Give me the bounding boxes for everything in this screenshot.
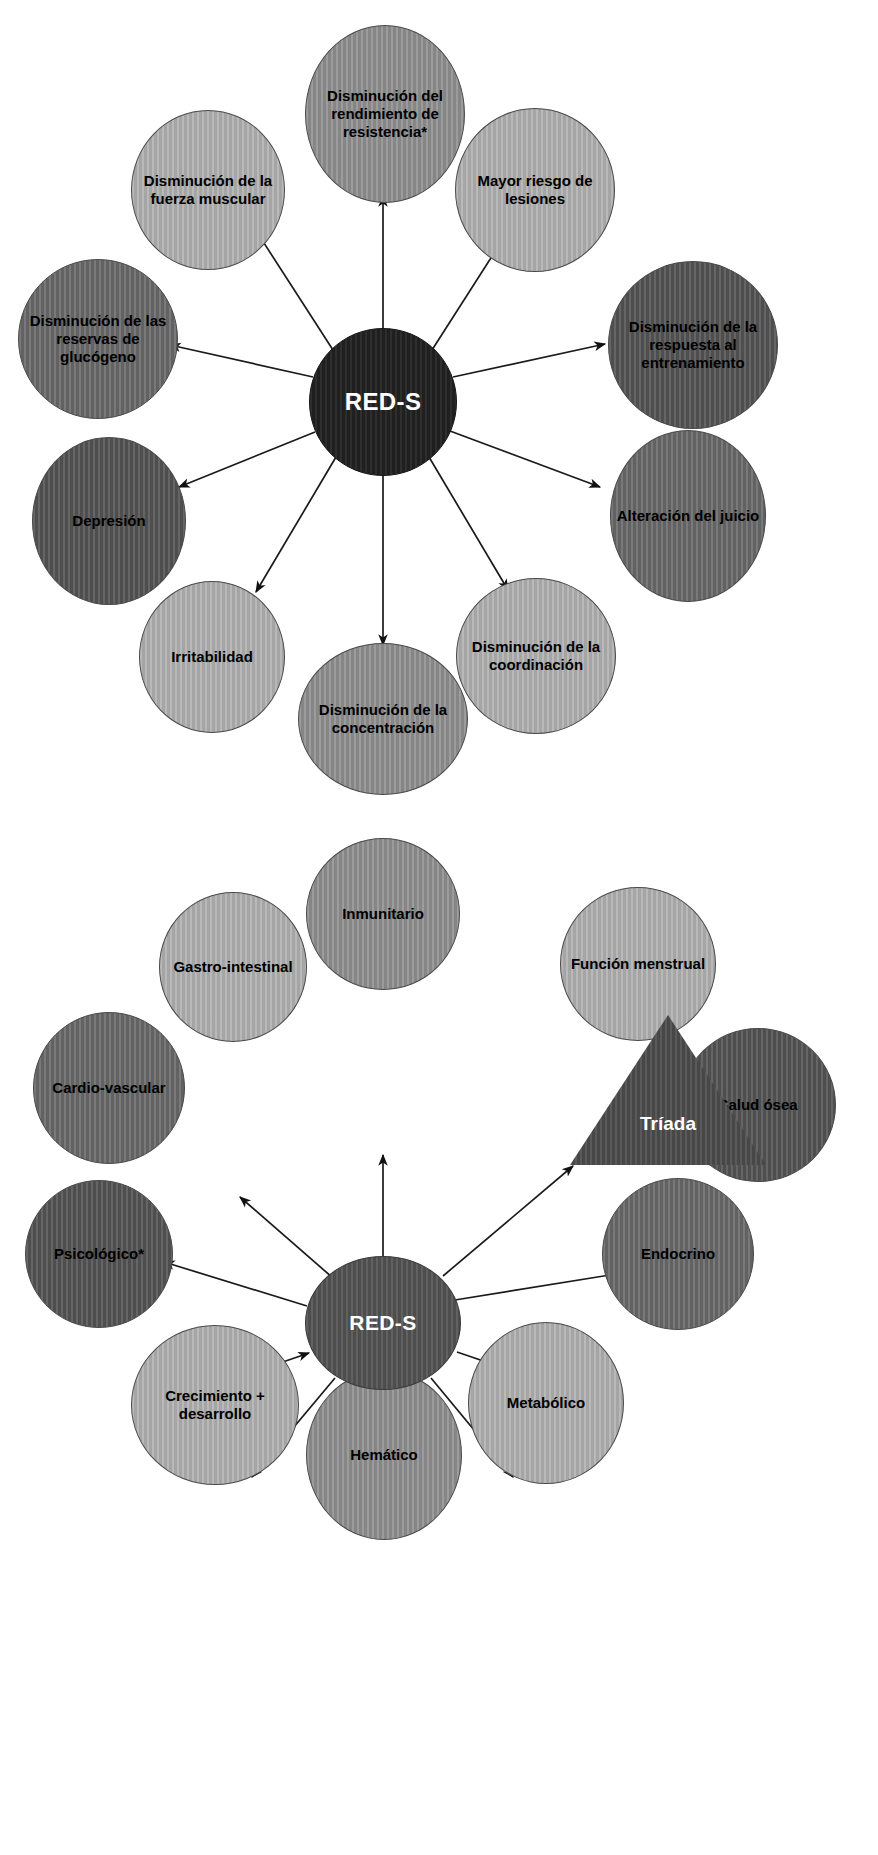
node-label: Metabólico: [474, 1394, 618, 1412]
node-label: Disminución de la coordinación: [462, 638, 610, 675]
node-label: Disminución de la respuesta al entrenami…: [614, 318, 772, 373]
triangle-label: Tríada: [640, 1113, 696, 1135]
node-label: Disminución de la concentración: [304, 701, 462, 738]
node-gastrointestinal[interactable]: Gastro-intestinal: [159, 892, 307, 1042]
connector-funcionmenstrual: [443, 1166, 573, 1276]
diagram-canvas: Disminución del rendimiento de resistenc…: [0, 0, 878, 1855]
hub-label: RED-S: [311, 1310, 455, 1336]
connector-coordinacion: [429, 457, 508, 590]
node-mayor-riesgo-lesiones[interactable]: Mayor riesgo de lesiones: [455, 108, 615, 272]
connector-gastrointestinal: [240, 1197, 333, 1278]
node-metabolico[interactable]: Metabólico: [468, 1322, 624, 1484]
hub-reds-performance[interactable]: RED-S: [309, 328, 457, 476]
node-label: Disminución de las reservas de glucógeno: [24, 312, 172, 367]
node-label: Inmunitario: [312, 905, 454, 923]
node-label: Cardio-vascular: [39, 1079, 179, 1097]
node-psicologico[interactable]: Psicológico*: [25, 1180, 173, 1328]
node-label: Irritabilidad: [145, 648, 279, 666]
connector-fuerza: [253, 226, 333, 350]
node-endocrino[interactable]: Endocrino: [602, 1178, 754, 1330]
node-disminucion-rendimiento-resistencia[interactable]: Disminución del rendimiento de resistenc…: [305, 25, 465, 203]
connector-respuesta: [453, 344, 605, 377]
node-disminucion-reservas-glucogeno[interactable]: Disminución de las reservas de glucógeno: [18, 259, 178, 419]
node-label: Alteración del juicio: [616, 507, 760, 525]
node-label: Psicológico*: [31, 1245, 167, 1263]
node-disminucion-concentracion[interactable]: Disminución de la concentración: [298, 643, 468, 795]
hub-reds-health[interactable]: RED-S: [305, 1256, 461, 1390]
node-label: Mayor riesgo de lesiones: [461, 172, 609, 209]
connector-saludosea: [455, 1275, 610, 1300]
node-depresion[interactable]: Depresión: [32, 437, 186, 605]
node-disminucion-fuerza-muscular[interactable]: Disminución de la fuerza muscular: [131, 110, 285, 270]
node-label: Endocrino: [608, 1245, 748, 1263]
node-disminucion-coordinacion[interactable]: Disminución de la coordinación: [456, 578, 616, 734]
node-label: Gastro-intestinal: [165, 958, 301, 976]
node-crecimiento-desarrollo[interactable]: Crecimiento + desarrollo: [131, 1325, 299, 1485]
node-label: Crecimiento + desarrollo: [137, 1387, 293, 1424]
connector-juicio: [450, 431, 600, 487]
node-label: Disminución del rendimiento de resistenc…: [311, 87, 459, 142]
node-disminucion-respuesta-entrenamiento[interactable]: Disminución de la respuesta al entrenami…: [608, 261, 778, 429]
triangle-triada[interactable]: Tríada: [570, 1015, 766, 1165]
node-cardiovascular[interactable]: Cardio-vascular: [33, 1012, 185, 1164]
connector-irritabilidad: [256, 457, 336, 592]
connector-depresion: [179, 432, 315, 487]
triangle-shape: [570, 1015, 766, 1165]
node-inmunitario[interactable]: Inmunitario: [306, 838, 460, 990]
connector-glucogeno: [170, 345, 313, 377]
connector-cardiovascular: [164, 1262, 307, 1306]
node-alteracion-juicio[interactable]: Alteración del juicio: [610, 430, 766, 602]
node-irritabilidad[interactable]: Irritabilidad: [139, 581, 285, 733]
node-hematico[interactable]: Hemático: [306, 1370, 462, 1540]
node-label: Disminución de la fuerza muscular: [137, 172, 279, 209]
node-label: Hemático: [312, 1446, 456, 1464]
node-label: Función menstrual: [566, 955, 710, 973]
node-label: Depresión: [38, 512, 180, 530]
hub-label: RED-S: [315, 387, 451, 416]
